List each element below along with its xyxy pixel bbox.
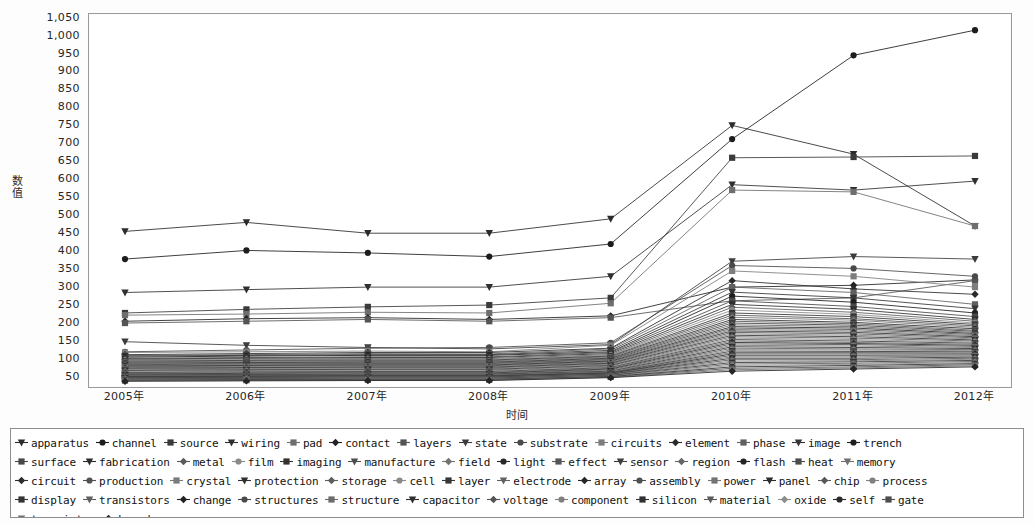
legend-row: surfacefabricationmetalfilmimagingmanufa… [15, 451, 1019, 470]
legend-item-source[interactable]: source [164, 432, 219, 451]
legend-item-circuits[interactable]: circuits [595, 432, 662, 451]
legend-label: layers [413, 437, 452, 450]
data-point-marker [18, 496, 24, 502]
legend-item-apparatus[interactable]: apparatus [15, 432, 89, 451]
legend-item-memory[interactable]: memory [841, 451, 896, 470]
legend-item-light[interactable]: light [497, 451, 545, 470]
data-point-marker [740, 458, 746, 464]
legend-item-production[interactable]: production [83, 470, 163, 489]
legend-item-effect[interactable]: effect [552, 451, 607, 470]
data-point-marker [678, 458, 685, 465]
y-tick-label: 600 [24, 173, 80, 184]
series-contact [121, 276, 978, 325]
legend-row: transistorboard [15, 508, 1019, 518]
legend-item-layers[interactable]: layers [397, 432, 452, 451]
legend-item-metal[interactable]: metal [177, 451, 225, 470]
legend-item-electrode[interactable]: electrode [497, 470, 571, 489]
legend-item-change[interactable]: change [177, 489, 232, 508]
legend-marker-icon [514, 437, 527, 448]
legend-item-structure[interactable]: structure [325, 489, 399, 508]
legend-item-sensor[interactable]: sensor [614, 451, 669, 470]
legend-item-region[interactable]: region [675, 451, 730, 470]
legend-item-pad[interactable]: pad [287, 432, 322, 451]
legend-item-component[interactable]: component [555, 489, 629, 508]
legend-item-state[interactable]: state [459, 432, 507, 451]
legend-item-protection[interactable]: protection [238, 470, 318, 489]
data-point-marker [329, 496, 335, 502]
legend-label: imaging [296, 456, 341, 469]
legend-item-fabrication[interactable]: fabrication [83, 451, 170, 470]
legend-label: panel [779, 475, 811, 488]
legend-marker-icon [578, 475, 591, 486]
data-point-marker [332, 439, 339, 446]
data-point-marker [328, 477, 335, 484]
legend-item-power[interactable]: power [708, 470, 756, 489]
legend-item-assembly[interactable]: assembly [633, 470, 700, 489]
data-point-marker [121, 228, 128, 235]
legend-item-element[interactable]: element [669, 432, 730, 451]
data-point-marker [243, 318, 249, 324]
legend-marker-icon [177, 494, 190, 505]
legend-item-cell[interactable]: cell [393, 470, 435, 489]
legend-item-storage[interactable]: storage [325, 470, 386, 489]
legend-item-panel[interactable]: panel [763, 470, 811, 489]
legend-item-wiring[interactable]: wiring [225, 432, 280, 451]
legend-item-crystal[interactable]: crystal [170, 470, 231, 489]
legend-label: trench [863, 437, 902, 450]
legend-item-capacitor[interactable]: capacitor [406, 489, 480, 508]
legend-label: display [31, 494, 76, 507]
legend-marker-icon [280, 456, 293, 467]
legend-label: wiring [241, 437, 280, 450]
legend-item-phase[interactable]: phase [737, 432, 785, 451]
legend-label: self [849, 494, 875, 507]
legend-label: protection [254, 475, 318, 488]
legend-label: effect [568, 456, 607, 469]
legend-marker-icon [497, 456, 510, 467]
legend-item-contact[interactable]: contact [329, 432, 390, 451]
legend-marker-icon [792, 456, 805, 467]
legend-item-heat[interactable]: heat [792, 451, 834, 470]
legend-item-oxide[interactable]: oxide [778, 489, 826, 508]
data-point-marker [122, 320, 128, 326]
legend-item-gate[interactable]: gate [882, 489, 924, 508]
legend-item-image[interactable]: image [792, 432, 840, 451]
legend-marker-icon [737, 437, 750, 448]
legend-item-circuit[interactable]: circuit [15, 470, 76, 489]
legend-label: apparatus [31, 437, 89, 450]
data-point-marker [781, 496, 788, 503]
legend-item-manufacture[interactable]: manufacture [348, 451, 435, 470]
series-line [125, 266, 975, 352]
legend-item-field[interactable]: field [442, 451, 490, 470]
legend-item-board[interactable]: board [102, 508, 150, 518]
data-point-marker [486, 318, 492, 324]
legend-item-flash[interactable]: flash [737, 451, 785, 470]
legend-item-material[interactable]: material [704, 489, 771, 508]
legend-label: circuits [611, 437, 662, 450]
legend-item-self[interactable]: self [833, 489, 875, 508]
legend-item-chip[interactable]: chip [818, 470, 860, 489]
legend-item-film[interactable]: film [232, 451, 274, 470]
legend-item-structures[interactable]: structures [238, 489, 318, 508]
legend-item-substrate[interactable]: substrate [514, 432, 588, 451]
legend-label: substrate [530, 437, 588, 450]
legend-marker-icon [287, 437, 300, 448]
legend-item-layer[interactable]: layer [442, 470, 490, 489]
legend-item-process[interactable]: process [866, 470, 927, 489]
legend-item-surface[interactable]: surface [15, 451, 76, 470]
legend-item-silicon[interactable]: silicon [636, 489, 697, 508]
legend-item-trench[interactable]: trench [847, 432, 902, 451]
legend-item-imaging[interactable]: imaging [280, 451, 341, 470]
legend-item-channel[interactable]: channel [96, 432, 157, 451]
legend-item-transistor[interactable]: transistor [15, 508, 95, 518]
legend-item-display[interactable]: display [15, 489, 76, 508]
data-point-marker [365, 304, 371, 310]
data-point-marker [729, 155, 735, 161]
series-line [125, 280, 975, 321]
legend-label: gate [898, 494, 924, 507]
legend-item-array[interactable]: array [578, 470, 626, 489]
data-point-marker [885, 496, 891, 502]
data-point-marker [517, 439, 523, 445]
legend-item-transistors[interactable]: transistors [83, 489, 170, 508]
legend-label: flash [753, 456, 785, 469]
legend-item-voltage[interactable]: voltage [487, 489, 548, 508]
